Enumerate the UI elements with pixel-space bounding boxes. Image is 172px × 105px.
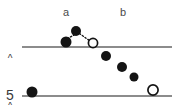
note-head-filled-n1 [27,87,38,98]
note-head-open-n4 [88,38,97,47]
note-head-filled-n3 [71,26,81,36]
note-head-filled-n7 [130,73,139,82]
note-head-open-n8 [148,85,158,95]
note-head-filled-n6 [117,62,127,72]
note-head-filled-n5 [101,51,111,61]
note-heads [27,26,159,98]
span-label-b: b [116,7,130,18]
figure-canvas [0,0,172,105]
note-head-filled-n2 [61,37,72,48]
schenkerian-reduction-figure: ^ 5 ^ 1 a b [0,0,172,105]
span-label-a: a [59,7,73,18]
caret-icon-lower: ^ [3,103,17,105]
caret-icon-upper: ^ [3,55,17,62]
slur-a-down-line [80,34,91,42]
scale-degree-label-lower: ^ 1 [3,77,17,105]
